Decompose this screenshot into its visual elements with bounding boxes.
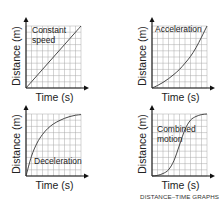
graph-label: speed <box>32 35 55 45</box>
y-axis-label: Distance (m) <box>10 26 22 86</box>
x-axis-arrow-icon <box>210 174 215 179</box>
x-axis-label: Time (s) <box>35 91 73 103</box>
graph-deceleration: DecelerationTime (s)Distance (m) <box>10 105 89 191</box>
graph-label: Deceleration <box>34 156 82 166</box>
x-axis-arrow-icon <box>210 86 215 91</box>
y-axis-arrow-icon <box>24 17 29 22</box>
y-axis-arrow-icon <box>24 105 29 110</box>
graph-acceleration: AccelerationTime (s)Distance (m) <box>136 17 215 103</box>
graph-combined-motion: CombinedmotionTime (s)Distance (m) <box>136 105 215 191</box>
y-axis-label: Distance (m) <box>136 114 148 174</box>
y-axis-arrow-icon <box>150 105 155 110</box>
graph-label: Constant <box>32 25 67 35</box>
graph-label: Acceleration <box>155 24 202 34</box>
y-axis-label: Distance (m) <box>10 114 22 174</box>
x-axis-label: Time (s) <box>35 179 73 191</box>
figure-caption: DISTANCE–TIME GRAPHS <box>140 193 219 200</box>
graph-label: motion <box>157 134 183 144</box>
x-axis-label: Time (s) <box>161 91 199 103</box>
x-axis-arrow-icon <box>84 174 89 179</box>
graph-label: Combined <box>157 124 196 134</box>
y-axis-arrow-icon <box>150 17 155 22</box>
x-axis-label: Time (s) <box>161 179 199 191</box>
distance-time-graphs-figure: ConstantspeedTime (s)Distance (m)Acceler… <box>0 0 224 206</box>
x-axis-arrow-icon <box>84 86 89 91</box>
y-axis-label: Distance (m) <box>136 26 148 86</box>
graph-constant-speed: ConstantspeedTime (s)Distance (m) <box>10 17 89 103</box>
